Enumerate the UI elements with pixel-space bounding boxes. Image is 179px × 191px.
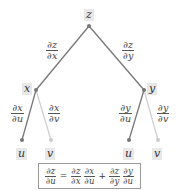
formula-term1a: ∂z ∂x — [70, 167, 81, 186]
edge-label-x-u: ∂x ∂u — [11, 103, 24, 124]
formula-num: ∂z — [71, 167, 82, 177]
edge-label-z-x: ∂z ∂x — [46, 40, 58, 61]
node-v-right: v — [152, 148, 162, 160]
edge-label-y-u: ∂y ∂u — [119, 103, 132, 124]
formula-den: ∂y — [109, 177, 120, 186]
edge-label-y-v: ∂y ∂v — [157, 103, 169, 124]
node-v-left: v — [45, 148, 55, 160]
edge-den: ∂x — [46, 51, 58, 61]
edge-den: ∂u — [11, 114, 24, 124]
node-u-right: u — [123, 148, 134, 160]
edge-den: ∂y — [122, 51, 134, 61]
chain-rule-formula: ∂z ∂u = ∂z ∂x ∂x ∂u + ∂z ∂y ∂y ∂u — [38, 163, 141, 189]
formula-num: ∂z — [45, 167, 56, 177]
node-y: y — [147, 83, 157, 95]
formula-num: ∂z — [109, 167, 120, 177]
edge-den: ∂v — [48, 114, 60, 124]
edge-label-x-v: ∂x ∂v — [48, 103, 60, 124]
formula-den: ∂u — [84, 177, 96, 186]
formula-lhs: ∂z ∂u — [45, 167, 57, 186]
formula-num: ∂y — [123, 167, 134, 177]
node-u-left: u — [16, 148, 27, 160]
plus-sign: + — [97, 171, 107, 181]
edge-den: ∂u — [119, 114, 132, 124]
equals-sign: = — [59, 171, 69, 181]
node-x: x — [22, 83, 32, 95]
formula-den: ∂u — [122, 177, 134, 186]
formula-term2b: ∂y ∂u — [122, 167, 134, 186]
formula-den: ∂x — [70, 177, 81, 186]
edge-label-z-y: ∂z ∂y — [122, 40, 134, 61]
formula-num: ∂x — [84, 167, 95, 177]
formula-den: ∂u — [45, 177, 57, 186]
formula-term2a: ∂z ∂y — [109, 167, 120, 186]
node-z: z — [84, 9, 94, 21]
formula-term1b: ∂x ∂u — [84, 167, 96, 186]
edge-den: ∂v — [157, 114, 169, 124]
